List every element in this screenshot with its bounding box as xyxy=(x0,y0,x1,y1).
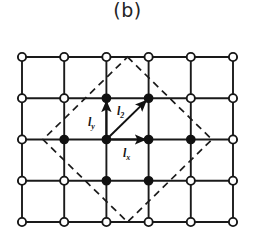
vector-label-lx-sub: x xyxy=(126,153,130,162)
lattice-node-open xyxy=(60,94,68,102)
lattice-node-open xyxy=(18,218,26,226)
vector-l2-arrow xyxy=(106,100,146,139)
lattice-node-open xyxy=(145,218,153,226)
lattice-node-open xyxy=(187,218,195,226)
lattice-node-filled xyxy=(145,177,153,185)
lattice-node-open xyxy=(187,177,195,185)
lattice-node-open xyxy=(60,218,68,226)
lattice-node-open xyxy=(18,177,26,185)
lattice-node-filled xyxy=(102,135,110,143)
lattice-node-open xyxy=(18,94,26,102)
lattice-node-open xyxy=(187,94,195,102)
lattice-node-filled xyxy=(102,177,110,185)
lattice-node-open xyxy=(187,53,195,61)
lattice-node-filled xyxy=(60,135,68,143)
lattice-node-open xyxy=(229,135,237,143)
lattice-node-open xyxy=(229,218,237,226)
lattice-diagram xyxy=(0,0,255,243)
lattice-node-open xyxy=(102,53,110,61)
basis-vectors xyxy=(106,100,146,139)
lattice-node-filled xyxy=(187,135,195,143)
vector-label-l2-sub: 2 xyxy=(120,111,124,120)
lattice-node-open xyxy=(102,218,110,226)
lattice-node-filled xyxy=(145,94,153,102)
lattice-node-open xyxy=(18,135,26,143)
lattice-node-open xyxy=(18,53,26,61)
vector-label-ly: ly xyxy=(88,116,95,131)
lattice-node-open xyxy=(229,177,237,185)
lattice-node-filled xyxy=(102,94,110,102)
lattice-node-open xyxy=(60,177,68,185)
lattice-node-filled xyxy=(145,135,153,143)
figure-root: (b) xyxy=(0,0,255,243)
vector-label-l2: l2 xyxy=(117,105,124,120)
vector-label-lx: lx xyxy=(123,147,130,162)
lattice-node-open xyxy=(229,53,237,61)
lattice-node-open xyxy=(229,94,237,102)
lattice-node-open xyxy=(145,53,153,61)
vector-label-ly-sub: y xyxy=(91,122,95,131)
lattice-node-open xyxy=(60,53,68,61)
